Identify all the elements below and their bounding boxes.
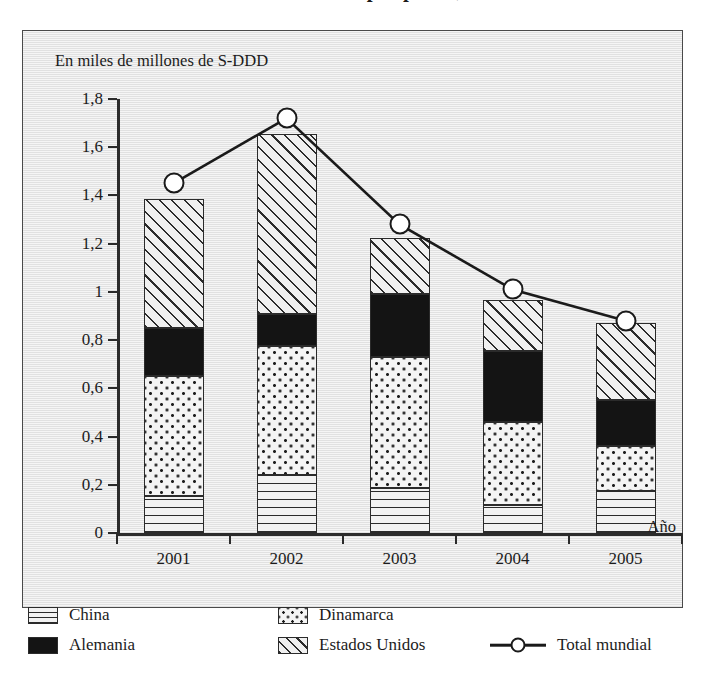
y-tick [108,194,117,196]
y-tick [108,146,117,148]
y-tick-label: 1,4 [82,185,103,205]
y-tick-label: 0,6 [82,378,103,398]
x-tick-label: 2001 [157,549,191,569]
legend-item-label: Estados Unidos [319,635,425,655]
legend-item-label: Dinamarca [319,605,394,625]
x-tick-label: 2002 [270,549,304,569]
y-tick [108,98,117,100]
y-tick-label: 0,8 [82,330,103,350]
legend-swatch-dinamarca-icon [278,607,308,624]
y-tick [108,243,117,245]
x-tick-label: 2005 [609,549,643,569]
legend-item-alemania[interactable]: Alemania [28,635,135,655]
legend-swatch-alemania-icon [28,637,58,654]
y-tick-label: 0,2 [82,475,103,495]
legend-swatch-china-icon [28,607,58,624]
y-tick [108,484,117,486]
y-tick [108,339,117,341]
y-tick [108,387,117,389]
legend-item-label: China [69,605,110,625]
total-mundial-marker[interactable] [615,310,636,331]
y-tick-label: 1,2 [82,234,103,254]
y-tick-label: 0,4 [82,427,103,447]
y-tick-label: 1,8 [82,89,103,109]
chart-title-strip: Consumo de estimulantes por países, 2001… [0,0,705,14]
plot-area: 00,20,40,60,811,21,41,61,8 2001200220032… [117,99,682,533]
total-mundial-marker[interactable] [502,279,523,300]
legend-swatch-eeuu-icon [278,637,308,654]
y-tick-label: 1,6 [82,137,103,157]
legend-circle-icon [511,638,526,653]
x-tick-label: 2003 [383,549,417,569]
legend-line-marker-icon [490,637,546,654]
chart-screenshot: Consumo de estimulantes por países, 2001… [0,0,705,688]
legend-item-china[interactable]: China [28,605,110,625]
legend-item-dinamarca[interactable]: Dinamarca [278,605,394,625]
total-mundial-line [117,99,682,535]
legend-item-total[interactable]: Total mundial [490,635,652,655]
page-title: Consumo de estimulantes por países, 2001… [0,0,705,3]
chart-panel: En miles de millones de S-DDD 00,20,40,6… [22,30,683,608]
total-mundial-marker[interactable] [163,173,184,194]
y-tick-label: 1 [95,282,104,302]
x-axis-title: Año [648,517,676,537]
chart-legend: ChinaDinamarcaAlemaniaEstados UnidosTota… [28,603,678,665]
legend-item-label: Alemania [69,635,135,655]
y-axis-caption: En miles de millones de S-DDD [55,51,268,71]
legend-item-eeuu[interactable]: Estados Unidos [278,635,425,655]
y-tick-label: 0 [95,523,104,543]
y-tick [108,291,117,293]
total-mundial-marker[interactable] [389,214,410,235]
legend-item-label: Total mundial [557,635,652,655]
y-tick [108,436,117,438]
x-tick-label: 2004 [496,549,530,569]
total-mundial-marker[interactable] [276,108,297,129]
